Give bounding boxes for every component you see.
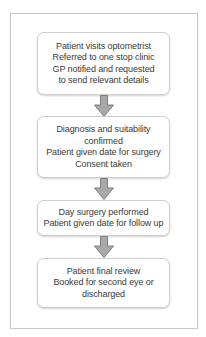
step-text-line: Diagnosis and suitability	[56, 124, 150, 136]
step-text-line: Patient given date for surgery	[46, 147, 161, 159]
down-arrow-icon	[93, 178, 115, 200]
step-text-line: Referred to one stop clinic	[53, 52, 155, 64]
step-text-line: Day surgery performed	[59, 207, 149, 219]
step-text-line: Consent taken	[75, 159, 132, 171]
flow-step-diagnosis-confirmed: Diagnosis and suitability confirmed Pati…	[37, 116, 170, 178]
step-text-line: confirmed	[84, 136, 123, 148]
step-text-line: Patient visits optometrist	[56, 41, 151, 53]
down-arrow-icon	[93, 236, 115, 258]
step-text-line: GP notified and requested	[53, 64, 155, 76]
flow-step-day-surgery: Day surgery performed Patient given date…	[37, 200, 170, 236]
step-text-line: to send relevant details	[58, 75, 148, 87]
step-text-line: discharged	[82, 289, 125, 301]
flow-step-patient-visits-optometrist: Patient visits optometrist Referred to o…	[37, 32, 170, 95]
step-text-line: Patient final review	[67, 266, 141, 278]
step-text-line: Patient given date for follow up	[44, 218, 164, 230]
step-text-line: Booked for second eye or	[53, 277, 153, 289]
flow-step-final-review: Patient final review Booked for second e…	[37, 258, 170, 308]
down-arrow-icon	[93, 95, 115, 117]
